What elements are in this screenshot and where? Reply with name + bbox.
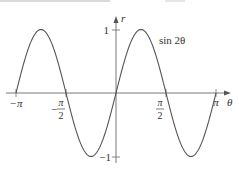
label-neg-one: −1 bbox=[99, 151, 111, 163]
label-neg-half-pi-sign: − bbox=[51, 103, 57, 115]
label-neg-half-pi-den: 2 bbox=[59, 110, 64, 121]
label-half-pi-den: 2 bbox=[158, 110, 163, 121]
label-pi: π bbox=[213, 96, 219, 108]
label-theta: θ bbox=[227, 96, 233, 108]
label-half-pi-num: π bbox=[157, 97, 163, 108]
label-neg-pi: −π bbox=[10, 97, 23, 109]
label-one: 1 bbox=[104, 24, 110, 36]
y-axis-arrow-icon bbox=[114, 16, 119, 23]
x-axis-arrow-icon bbox=[224, 91, 231, 96]
label-r: r bbox=[121, 12, 126, 24]
label-neg-half-pi-num: π bbox=[58, 97, 64, 108]
curve-label: sin 2θ bbox=[159, 34, 185, 46]
sine-plot: −π π θ r 1 −1 sin 2θ − π 2 π 2 bbox=[0, 0, 239, 179]
